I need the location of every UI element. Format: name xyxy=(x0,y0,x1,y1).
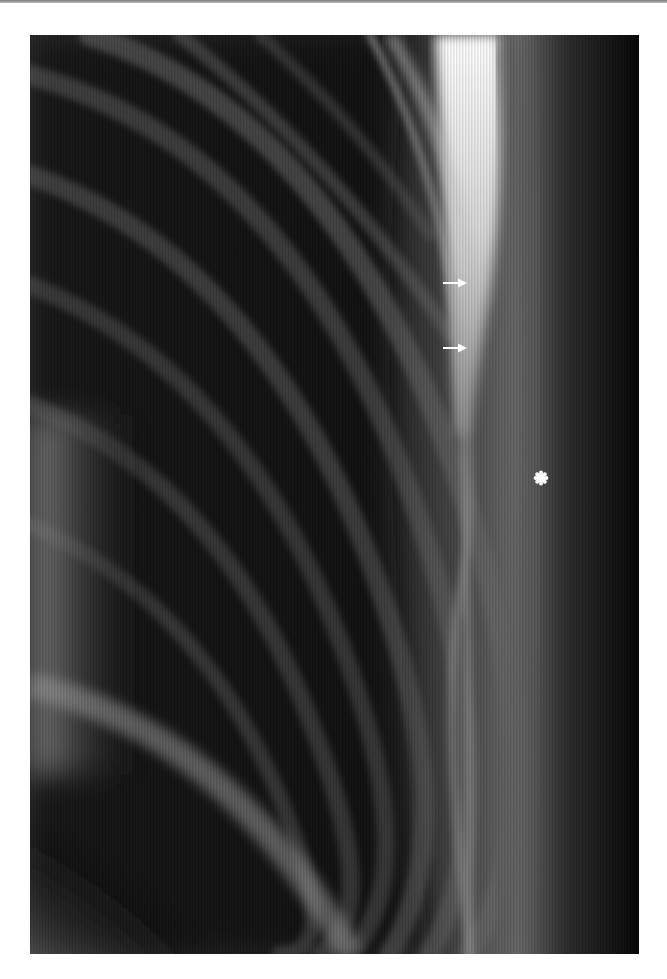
arrow-right-icon xyxy=(443,343,467,353)
top-rule xyxy=(0,0,667,3)
radiograph-illustration xyxy=(30,35,639,954)
arrow-right-icon xyxy=(443,278,467,288)
radiograph-image xyxy=(30,35,639,954)
asterisk-icon xyxy=(533,470,549,486)
